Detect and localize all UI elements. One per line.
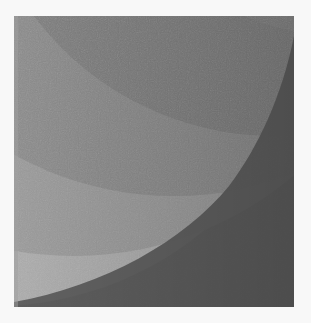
left-edge — [14, 16, 18, 307]
arc-composition — [14, 16, 294, 307]
abstract-arc-square — [14, 16, 294, 307]
right-edge-shadow — [14, 16, 294, 307]
image-canvas — [0, 0, 311, 323]
